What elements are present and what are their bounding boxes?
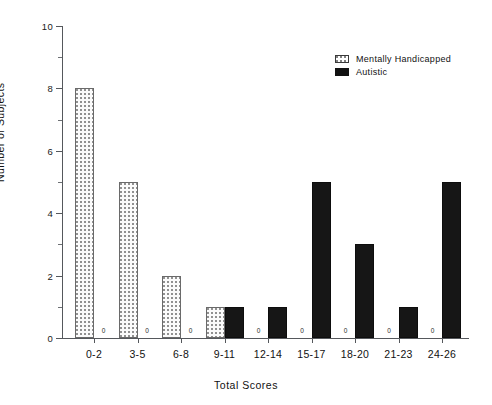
zero-value-label: 0 [293,328,312,335]
x-tick-label: 21-23 [384,348,412,360]
zero-value-label: 0 [380,328,399,335]
zero-value-label: 0 [336,328,355,335]
legend-item: Mentally Handicapped [335,52,451,65]
x-tick-label: 18-20 [341,348,369,360]
x-axis-line [62,338,469,339]
zero-value-label: 0 [181,328,200,335]
x-tick-mark [442,338,443,343]
y-tick-mark [58,244,62,245]
legend-swatch-mentally-handicapped [335,55,349,63]
bar [268,307,287,338]
zero-value-label: 0 [423,328,442,335]
y-tick-label: 0 [47,333,53,344]
y-tick-mark [56,88,62,89]
bar-group [206,26,244,338]
bar [355,244,374,338]
bar [312,182,331,338]
y-axis-title: Number of Subjects [0,83,6,182]
x-axis-title: Total Scores [0,379,492,391]
bar [399,307,418,338]
zero-value-label: 0 [249,328,268,335]
bar [206,307,225,338]
bar-group: 0 [75,26,113,338]
chart-legend: Mentally HandicappedAutistic [335,52,451,78]
x-tick-label: 15-17 [297,348,325,360]
x-tick-label: 9-11 [214,348,235,360]
y-tick-label: 2 [47,270,53,281]
legend-label: Mentally Handicapped [356,54,451,64]
y-tick-mark [56,213,62,214]
y-tick-mark [58,307,62,308]
x-tick-mark [268,338,269,343]
x-tick-label: 6-8 [173,348,189,360]
x-tick-mark [399,338,400,343]
y-tick-label: 4 [47,208,53,219]
bar-group: 0 [162,26,200,338]
legend-label: Autistic [356,67,387,77]
y-tick-label: 8 [47,83,53,94]
zero-value-label: 0 [138,328,157,335]
bar [119,182,138,338]
x-tick-label: 0-2 [86,348,102,360]
y-tick-mark [56,26,62,27]
bar-group: 0 [249,26,287,338]
y-tick-label: 10 [42,21,53,32]
bar [75,88,94,338]
y-tick-mark [58,120,62,121]
x-tick-label: 24-26 [428,348,456,360]
bar-group: 0 [119,26,157,338]
bar [442,182,461,338]
bar [225,307,244,338]
x-tick-mark [181,338,182,343]
y-tick-mark [56,151,62,152]
legend-item: Autistic [335,65,451,78]
x-tick-mark [355,338,356,343]
x-tick-mark [312,338,313,343]
bar [162,276,181,338]
y-tick-mark [58,182,62,183]
y-tick-mark [58,57,62,58]
x-tick-label: 12-14 [254,348,282,360]
x-tick-mark [138,338,139,343]
x-tick-mark [94,338,95,343]
x-tick-label: 3-5 [129,348,145,360]
y-tick-mark [56,338,62,339]
x-tick-mark [225,338,226,343]
legend-swatch-autistic [335,68,349,76]
bar-group: 0 [293,26,331,338]
zero-value-label: 0 [94,328,113,335]
y-tick-mark [56,276,62,277]
bar-chart-figure: Number of Subjects Total Scores 0246810 … [0,0,492,405]
y-tick-label: 6 [47,145,53,156]
